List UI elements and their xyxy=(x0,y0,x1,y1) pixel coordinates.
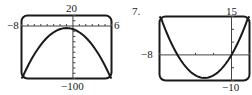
graph1-axes xyxy=(22,16,112,79)
graph2 xyxy=(160,17,250,81)
graph1 xyxy=(22,16,112,79)
graph2-curve xyxy=(160,17,250,78)
plots-canvas xyxy=(0,0,252,95)
graph1-curve xyxy=(22,28,112,78)
